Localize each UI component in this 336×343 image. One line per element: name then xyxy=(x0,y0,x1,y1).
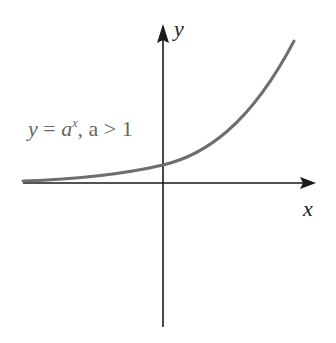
equation-base: a xyxy=(61,116,72,141)
graph-canvas xyxy=(0,0,336,343)
y-axis-label: y xyxy=(174,16,184,42)
exponential-curve xyxy=(23,41,294,181)
equation-condition: , a > 1 xyxy=(78,116,133,141)
curve-equation-label: y = ax, a > 1 xyxy=(28,116,133,142)
equation-lhs: y xyxy=(28,116,38,141)
x-axis-label: x xyxy=(303,196,313,222)
equation-equals: = xyxy=(38,116,61,141)
